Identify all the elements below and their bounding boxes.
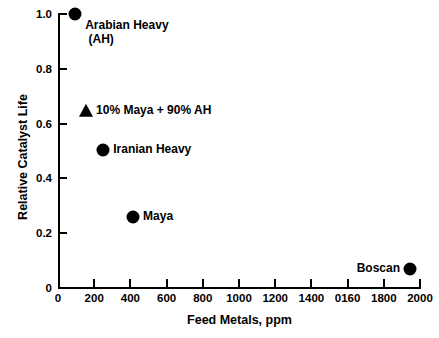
x-tick-label-10: 2000 xyxy=(407,292,433,304)
y-axis-title: Relative Catalyst Life xyxy=(16,72,30,242)
x-tick-9 xyxy=(383,279,385,287)
x-tick-label-1: 200 xyxy=(85,292,104,304)
y-tick-label-0: 0 xyxy=(0,282,52,294)
data-label-iranian-heavy: Iranian Heavy xyxy=(113,143,191,157)
y-tick-3 xyxy=(60,123,67,125)
x-tick-label-9: 1800 xyxy=(371,292,397,304)
x-tick-label-7: 1400 xyxy=(299,292,325,304)
x-axis-line xyxy=(58,287,421,289)
data-label-maya: Maya xyxy=(143,210,173,224)
data-label-arabian-heavy: Arabian Heavy (AH) xyxy=(85,19,168,46)
data-marker-arabian-heavy xyxy=(69,8,82,21)
y-tick-1 xyxy=(60,232,67,234)
data-label-maya-ah-blend: 10% Maya + 90% AH xyxy=(96,105,211,119)
x-tick-7 xyxy=(310,279,312,287)
y-tick-label-5: 1.0 xyxy=(0,8,52,20)
data-label-boscan: Boscan xyxy=(357,262,400,276)
x-tick-6 xyxy=(274,279,276,287)
x-tick-label-6: 1200 xyxy=(262,292,288,304)
y-tick-0 xyxy=(60,287,67,289)
x-tick-3 xyxy=(166,279,168,287)
x-tick-label-2: 400 xyxy=(121,292,140,304)
x-tick-label-4: 800 xyxy=(193,292,212,304)
x-tick-1 xyxy=(93,279,95,287)
data-marker-maya-ah-blend xyxy=(79,104,93,117)
x-tick-label-8: 0160 xyxy=(335,292,361,304)
x-tick-2 xyxy=(129,279,131,287)
x-tick-label-3: 600 xyxy=(157,292,176,304)
data-marker-maya xyxy=(127,210,140,223)
x-axis-title: Feed Metals, ppm xyxy=(58,313,421,327)
y-axis-line xyxy=(58,13,60,289)
x-tick-label-0: 0 xyxy=(55,292,61,304)
x-tick-4 xyxy=(202,279,204,287)
x-tick-10 xyxy=(419,279,421,287)
x-tick-8 xyxy=(347,279,349,287)
y-tick-4 xyxy=(60,68,67,70)
x-tick-label-5: 1000 xyxy=(226,292,252,304)
y-tick-2 xyxy=(60,177,67,179)
data-marker-boscan xyxy=(404,262,417,275)
scatter-chart: 00.20.40.60.81.0 02004006008001000120014… xyxy=(0,0,439,338)
y-tick-5 xyxy=(60,13,67,15)
data-marker-iranian-heavy xyxy=(97,143,110,156)
x-tick-5 xyxy=(238,279,240,287)
